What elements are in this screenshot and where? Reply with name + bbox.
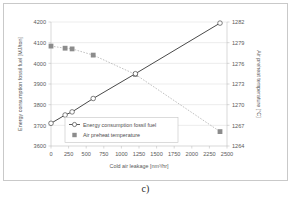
data-point-marker <box>133 71 138 76</box>
x-tick-label: 0 <box>49 151 52 157</box>
data-point-marker <box>218 129 223 134</box>
x-tick-label: 2250 <box>203 151 215 157</box>
y2-tick-label: 1276 <box>232 61 244 67</box>
y-tick-label: 3700 <box>34 123 46 129</box>
y-axis-title: Energy consumption fossil fuel [MJ/ton] <box>17 37 23 131</box>
data-point-marker <box>63 113 68 118</box>
y-tick-labels: 4200 4100 4000 3900 3800 3700 3600 <box>34 19 46 149</box>
legend-label-air-preheat-temperature: Air preheat temperature <box>83 132 140 138</box>
x-tick-label: 250 <box>64 151 73 157</box>
y2-axis-title: Air preheat temperature [°C] <box>256 50 262 118</box>
x-tick-label: 2500 <box>221 151 233 157</box>
y2-tick-label: 1267 <box>232 123 244 129</box>
y2-tick-labels: 1282 1279 1276 1273 1270 1267 1264 <box>232 19 244 149</box>
legend-marker-filled-square-icon <box>72 133 76 137</box>
y2-tick-label: 1270 <box>232 102 244 108</box>
y2-tick-label: 1264 <box>232 143 244 149</box>
data-point-marker <box>49 44 54 49</box>
x-tick-label: 1750 <box>168 151 180 157</box>
x-tick-label: 1000 <box>115 151 127 157</box>
y-tick-label: 4000 <box>34 61 46 67</box>
y-tick-label: 3800 <box>34 102 46 108</box>
data-point-marker <box>91 96 96 101</box>
data-point-marker <box>49 121 54 126</box>
figure-container: 4200 4100 4000 3900 3800 3700 3600 1282 … <box>0 0 291 206</box>
y-tick-label: 3600 <box>34 143 46 149</box>
y-tick-label: 4100 <box>34 40 46 46</box>
legend-marker-open-circle-icon <box>72 122 76 126</box>
data-point-marker <box>70 110 75 115</box>
data-point-marker <box>218 21 223 26</box>
data-point-marker <box>91 53 96 58</box>
y2-tick-label: 1273 <box>232 81 244 87</box>
chart-canvas: 4200 4100 4000 3900 3800 3700 3600 1282 … <box>0 0 291 182</box>
x-axis-title: Cold air leakage [nm³/hr] <box>109 163 169 169</box>
y2-tick-label: 1282 <box>232 19 244 25</box>
x-tick-label: 500 <box>82 151 91 157</box>
x-tick-label: 1500 <box>150 151 162 157</box>
y2-tick-label: 1279 <box>232 40 244 46</box>
y-tick-label: 4200 <box>34 19 46 25</box>
chart-svg: 4200 4100 4000 3900 3800 3700 3600 1282 … <box>0 0 291 182</box>
data-point-marker <box>63 46 68 51</box>
y-tick-marks <box>49 22 52 146</box>
data-point-marker <box>70 47 75 52</box>
x-tick-label: 1250 <box>133 151 145 157</box>
y2-tick-marks <box>227 22 230 146</box>
chart-legend[interactable]: Energy consumption fossil fuel Air prehe… <box>65 118 178 143</box>
legend-label-energy-consumption-fossil-fuel: Energy consumption fossil fuel <box>83 122 156 128</box>
y-tick-label: 3900 <box>34 81 46 87</box>
x-tick-marks <box>51 146 227 149</box>
figure-caption: c) <box>0 183 291 194</box>
x-tick-labels: 0 250 500 750 1000 1250 1500 1750 2000 2… <box>49 151 233 157</box>
x-tick-label: 2000 <box>186 151 198 157</box>
x-tick-label: 750 <box>99 151 108 157</box>
